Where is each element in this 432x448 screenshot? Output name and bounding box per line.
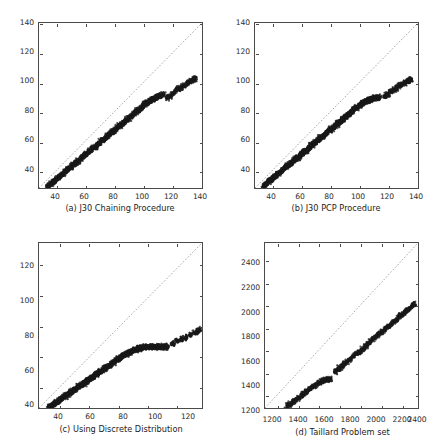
tickmark-x (60, 406, 61, 409)
tickmark-x (57, 24, 58, 27)
figure-scatter-grid: 140 120 100 80 60 40 40 60 80 100 120 14… (0, 0, 432, 448)
ytick-c-2: 80 (8, 331, 34, 340)
plot-area-b (254, 22, 419, 189)
tickmark-y (40, 265, 43, 266)
tickmark-y (200, 388, 203, 389)
tickmark-x (389, 24, 390, 27)
tickmark-y (200, 54, 203, 55)
tickmark-y (40, 327, 43, 328)
tickmark-y (40, 24, 43, 25)
xtick-b-2: 80 (318, 192, 340, 201)
ytick-b-1: 60 (224, 135, 250, 144)
ytick-c-1: 60 (8, 366, 34, 375)
ytick-d-0: 1200 (222, 406, 260, 415)
tickmark-x (89, 244, 90, 247)
xtick-c-3: 100 (143, 412, 167, 421)
tickmark-x (302, 24, 303, 27)
xtick-a-3: 100 (130, 192, 154, 201)
xtick-c-1: 60 (79, 412, 101, 421)
xtick-c-2: 80 (112, 412, 134, 421)
tickmark-x (319, 406, 320, 409)
tickmark-y (40, 357, 43, 358)
xtick-b-1: 60 (289, 192, 311, 201)
tickmark-x (403, 406, 404, 409)
data-points-d (265, 243, 418, 408)
tickmark-y (200, 113, 203, 114)
xtick-b-3: 100 (346, 192, 370, 201)
tickmark-y (416, 143, 419, 144)
ytick-c-4: 120 (8, 261, 34, 270)
tickmark-y (266, 396, 269, 397)
tickmark-x (278, 244, 279, 247)
ytick-a-1: 60 (8, 135, 34, 144)
tickmark-y (416, 54, 419, 55)
xtick-a-1: 60 (73, 192, 95, 201)
tickmark-x (144, 186, 145, 189)
ytick-d-6: 2400 (222, 258, 260, 267)
tickmark-y (256, 143, 259, 144)
tickmark-x (331, 186, 332, 189)
tickmark-x (389, 186, 390, 189)
tickmark-x (340, 244, 341, 247)
tickmark-x (278, 406, 279, 409)
tickmark-x (86, 186, 87, 189)
tickmark-y (200, 172, 203, 173)
tickmark-x (86, 24, 87, 27)
tickmark-x (299, 406, 300, 409)
ytick-c-3: 100 (8, 296, 34, 305)
xtick-a-4: 120 (159, 192, 183, 201)
tickmark-y (256, 172, 259, 173)
tickmark-y (416, 374, 419, 375)
tickmark-y (200, 24, 203, 25)
plot-area-c (38, 242, 203, 409)
xtick-d-4: 2000 (363, 415, 389, 424)
data-points-b (255, 23, 418, 188)
xtick-a-0: 40 (44, 192, 66, 201)
tickmark-y (416, 306, 419, 307)
xtick-a-2: 80 (102, 192, 124, 201)
tickmark-x (119, 406, 120, 409)
tickmark-x (361, 244, 362, 247)
tickmark-x (382, 406, 383, 409)
xtick-a-5: 140 (188, 192, 212, 201)
panel-caption-b: (b) J30 PCP Procedure (246, 203, 426, 213)
xtick-d-3: 1800 (337, 415, 363, 424)
tickmark-y (256, 24, 259, 25)
ytick-a-0: 40 (8, 165, 34, 174)
plot-area-a (38, 22, 203, 189)
tickmark-x (273, 186, 274, 189)
tickmark-y (416, 351, 419, 352)
tickmark-y (256, 113, 259, 114)
ytick-d-5: 2200 (222, 283, 260, 292)
tickmark-y (40, 54, 43, 55)
tickmark-y (416, 284, 419, 285)
ytick-b-4: 120 (224, 47, 250, 56)
tickmark-x (148, 406, 149, 409)
tickmark-y (256, 54, 259, 55)
tickmark-x (60, 244, 61, 247)
tickmark-y (40, 172, 43, 173)
tickmark-x (57, 186, 58, 189)
tickmark-x (360, 186, 361, 189)
ytick-a-4: 120 (8, 47, 34, 56)
tickmark-x (173, 186, 174, 189)
tickmark-y (40, 113, 43, 114)
tickmark-y (266, 374, 269, 375)
tickmark-y (200, 296, 203, 297)
xtick-b-0: 40 (260, 192, 282, 201)
ytick-c-0: 40 (8, 400, 34, 409)
tickmark-y (200, 327, 203, 328)
ytick-a-5: 140 (8, 18, 34, 27)
tickmark-x (119, 244, 120, 247)
tickmark-y (266, 329, 269, 330)
xtick-c-4: 120 (176, 412, 200, 421)
tickmark-x (331, 24, 332, 27)
xtick-d-6: 2400 (404, 415, 430, 424)
tickmark-x (403, 244, 404, 247)
xtick-d-1: 1400 (285, 415, 311, 424)
tickmark-x (173, 24, 174, 27)
tickmark-x (144, 24, 145, 27)
panel-caption-d: (d) Taillard Problem set (255, 427, 430, 437)
tickmark-x (299, 244, 300, 247)
tickmark-y (416, 329, 419, 330)
